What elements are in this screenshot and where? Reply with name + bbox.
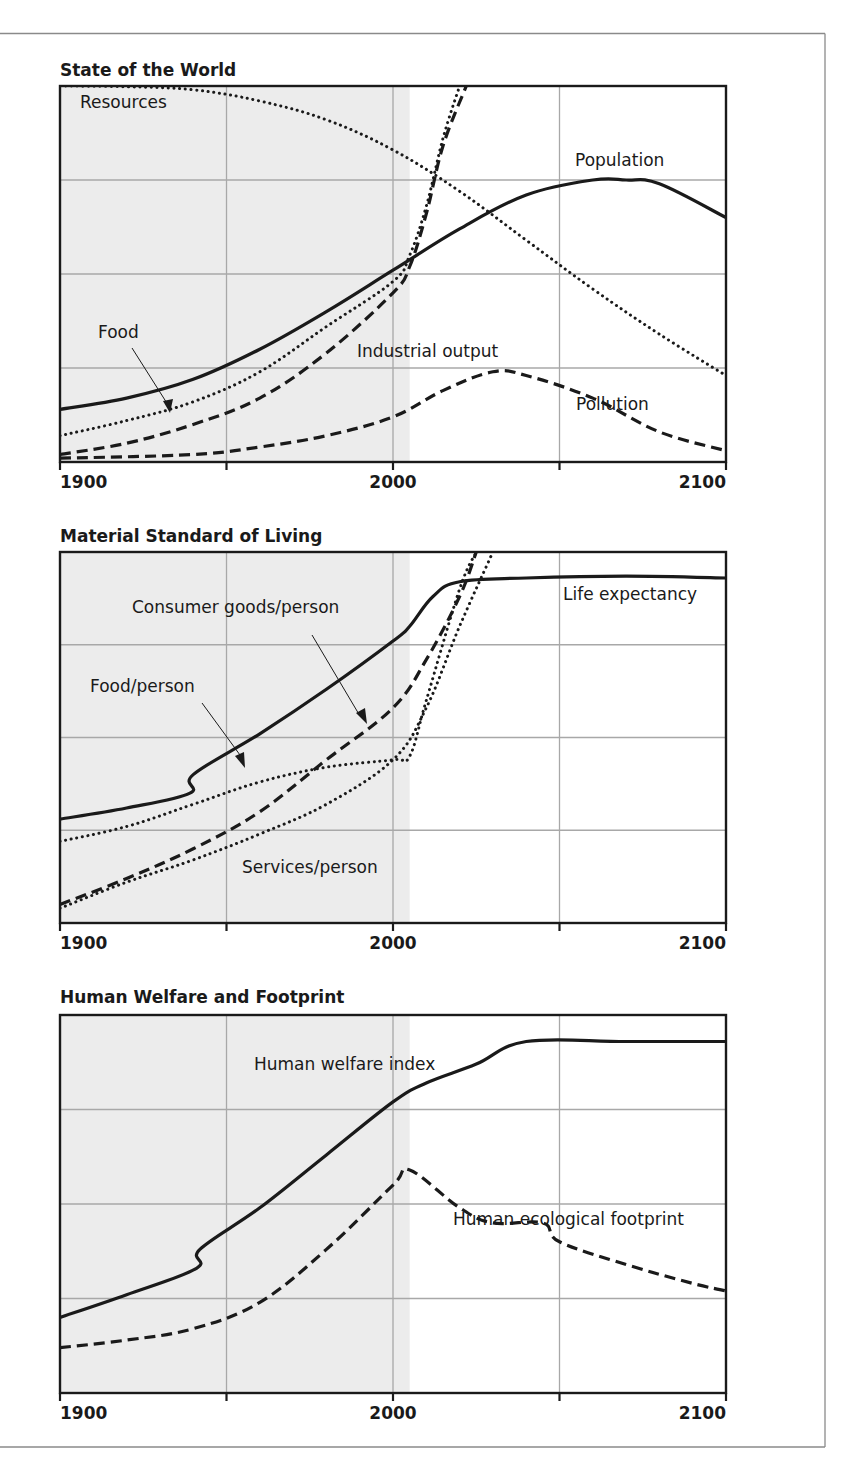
x-tick-label: 2000 bbox=[369, 472, 416, 492]
label-food-person: Food/person bbox=[90, 676, 195, 696]
x-tick-label: 2100 bbox=[679, 472, 726, 492]
panel-state-of-the-world: State of the World 190020002100 Resource… bbox=[60, 60, 726, 492]
label-consumer-goods-person: Consumer goods/person bbox=[132, 597, 339, 617]
x-axis-ticks: 190020002100 bbox=[60, 1393, 726, 1423]
x-axis-ticks: 190020002100 bbox=[60, 462, 726, 492]
chart-figure: State of the World 190020002100 Resource… bbox=[0, 0, 846, 1461]
label-services-person: Services/person bbox=[242, 857, 378, 877]
panel-title: State of the World bbox=[60, 60, 236, 80]
label-resources: Resources bbox=[80, 92, 167, 112]
label-population: Population bbox=[575, 150, 664, 170]
panel-human-welfare-and-footprint: Human Welfare and Footprint 190020002100… bbox=[60, 987, 726, 1423]
panel-title: Material Standard of Living bbox=[60, 526, 322, 546]
x-tick-label: 2000 bbox=[369, 1403, 416, 1423]
label-life-expectancy: Life expectancy bbox=[563, 584, 697, 604]
x-tick-label: 1900 bbox=[60, 472, 107, 492]
x-tick-label: 2100 bbox=[679, 933, 726, 953]
x-tick-label: 1900 bbox=[60, 933, 107, 953]
x-tick-label: 2000 bbox=[369, 933, 416, 953]
label-industrial-output: Industrial output bbox=[357, 341, 499, 361]
label-human-ecological-footprint: Human ecological footprint bbox=[453, 1209, 684, 1229]
panel-material-standard-of-living: Material Standard of Living 190020002100… bbox=[60, 526, 726, 953]
label-pollution: Pollution bbox=[576, 394, 649, 414]
panel-title: Human Welfare and Footprint bbox=[60, 987, 344, 1007]
x-tick-label: 1900 bbox=[60, 1403, 107, 1423]
label-human-welfare-index: Human welfare index bbox=[254, 1054, 435, 1074]
x-axis-ticks: 190020002100 bbox=[60, 923, 726, 953]
x-tick-label: 2100 bbox=[679, 1403, 726, 1423]
label-food: Food bbox=[98, 322, 139, 342]
